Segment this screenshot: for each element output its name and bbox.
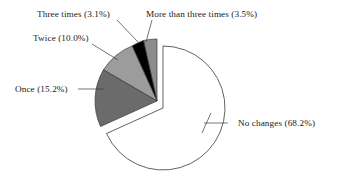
slice-label-once: Once (15.2%) [15, 84, 68, 95]
slice-label-no-changes: No changes (68.2%) [238, 118, 315, 129]
slice-label-twice: Twice (10.0%) [33, 33, 89, 44]
slice-label-more-than-three-times: More than three times (3.5%) [146, 9, 257, 20]
slice-label-three-times: Three times (3.1%) [37, 9, 110, 20]
